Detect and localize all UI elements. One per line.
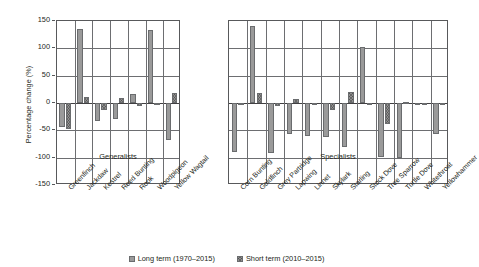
bar-short xyxy=(154,103,159,105)
y-tick-mark xyxy=(52,157,55,158)
bar-short xyxy=(422,103,428,105)
gridline-horizontal xyxy=(229,130,447,131)
legend-label-short-term: Short term (2010–2015) xyxy=(246,254,324,263)
bar-long xyxy=(378,103,384,157)
bar-long xyxy=(360,47,366,103)
bar-long xyxy=(287,103,293,134)
bar-short xyxy=(367,103,373,105)
bar-long xyxy=(113,103,118,119)
y-tick-mark xyxy=(52,102,55,103)
bar-long xyxy=(415,103,421,105)
panel-caption: Generalists xyxy=(57,152,179,161)
gridline-horizontal xyxy=(229,48,447,49)
legend-label-long-term: Long term (1970–2015) xyxy=(138,254,215,263)
y-tick-label: 0 xyxy=(22,98,50,106)
legend-item-long-term: Long term (1970–2015) xyxy=(129,254,215,263)
legend-swatch-short-term-icon xyxy=(237,256,243,262)
bar-long xyxy=(95,103,100,121)
bar-short xyxy=(66,103,71,129)
bar-long xyxy=(268,103,274,153)
bar-long xyxy=(130,94,135,103)
y-tick-label: -150 xyxy=(22,180,50,188)
y-tick-mark xyxy=(52,184,55,185)
legend-item-short-term: Short term (2010–2015) xyxy=(237,254,324,263)
y-tick-mark xyxy=(52,75,55,76)
bar-short xyxy=(119,98,124,103)
y-tick-label: 50 xyxy=(22,71,50,79)
bar-short xyxy=(330,103,336,110)
bar-short xyxy=(137,103,142,106)
bar-short xyxy=(293,99,299,103)
bar-long xyxy=(342,103,348,147)
bar-short xyxy=(257,93,263,103)
bar-long xyxy=(148,30,153,103)
y-tick-mark xyxy=(52,47,55,48)
bar-long xyxy=(323,103,329,137)
bar-short xyxy=(440,103,446,105)
bar-short xyxy=(172,93,177,103)
chart-legend: Long term (1970–2015) Short term (2010–2… xyxy=(0,254,453,263)
bar-long xyxy=(77,29,82,103)
bar-short xyxy=(403,102,409,104)
bar-short xyxy=(101,103,106,110)
bar-short xyxy=(238,103,244,105)
bar-long xyxy=(397,103,403,158)
y-tick-label: 100 xyxy=(22,43,50,51)
bar-short xyxy=(348,92,354,103)
bar-short xyxy=(275,103,281,106)
legend-swatch-long-term-icon xyxy=(129,256,135,262)
y-tick-label: -50 xyxy=(22,125,50,133)
bar-long xyxy=(305,103,311,136)
y-tick-mark xyxy=(52,129,55,130)
panel-generalists: Generalists xyxy=(56,20,180,184)
gridline-horizontal xyxy=(229,76,447,77)
bar-long xyxy=(59,103,64,127)
bar-long xyxy=(433,103,439,134)
bar-short xyxy=(312,103,318,105)
y-tick-label: 150 xyxy=(22,16,50,24)
bar-long xyxy=(232,103,238,152)
y-tick-mark xyxy=(52,20,55,21)
bar-short xyxy=(84,97,89,103)
bar-short xyxy=(385,103,391,124)
bar-long xyxy=(166,103,171,140)
y-tick-label: -100 xyxy=(22,153,50,161)
bar-long xyxy=(250,26,256,103)
